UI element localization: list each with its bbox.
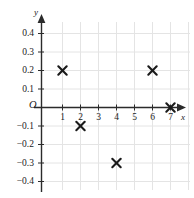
x-axis-label: x <box>181 113 185 122</box>
y-tick-label: 0.3 <box>4 48 34 58</box>
y-axis-label: y <box>34 8 38 17</box>
y-axis <box>38 14 46 192</box>
x-axis <box>34 104 186 112</box>
origin-label: O <box>29 100 37 111</box>
x-tick-label: 4 <box>107 113 127 123</box>
x-tick-label: 2 <box>71 113 91 123</box>
x-tick-label: 5 <box>125 113 145 123</box>
y-tick-label: −0.1 <box>1 122 34 132</box>
y-tick-label: 0.1 <box>4 85 34 95</box>
x-tick-label: 1 <box>53 113 73 123</box>
x-tick-label: 7 <box>161 113 181 123</box>
x-tick-label: 3 <box>89 113 109 123</box>
x-tick-label: 6 <box>143 113 163 123</box>
y-tick-label: −0.4 <box>1 177 34 187</box>
y-tick-label: −0.3 <box>1 159 34 169</box>
y-tick-label: 0.2 <box>4 66 34 76</box>
y-tick-label: −0.2 <box>1 140 34 150</box>
y-tick-label: 0.4 <box>4 29 34 39</box>
scatter-plot-figure: 0.4 0.3 0.2 0.1 −0.1 −0.2 −0.3 −0.4 O 1 … <box>0 0 194 198</box>
